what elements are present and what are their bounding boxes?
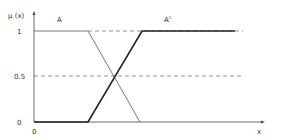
y-tick-0: 0 bbox=[17, 119, 21, 127]
x-axis-label: x bbox=[257, 128, 261, 136]
y-axis-arrow-icon bbox=[33, 11, 36, 15]
fuzzy-complement-diagram: μ (x) 1 0.5 0 0 x A Ac bbox=[0, 0, 281, 140]
y-tick-1: 1 bbox=[17, 28, 21, 36]
x-axis-arrow-icon bbox=[261, 121, 265, 124]
origin-label: 0 bbox=[32, 128, 36, 136]
set-a-curve bbox=[34, 31, 140, 122]
set-a-complement-curve bbox=[34, 31, 235, 122]
y-axis-label: μ (x) bbox=[8, 12, 25, 20]
set-a-label: A bbox=[57, 16, 62, 24]
set-a-complement-label: Ac bbox=[164, 14, 172, 24]
y-tick-0.5: 0.5 bbox=[14, 73, 25, 81]
